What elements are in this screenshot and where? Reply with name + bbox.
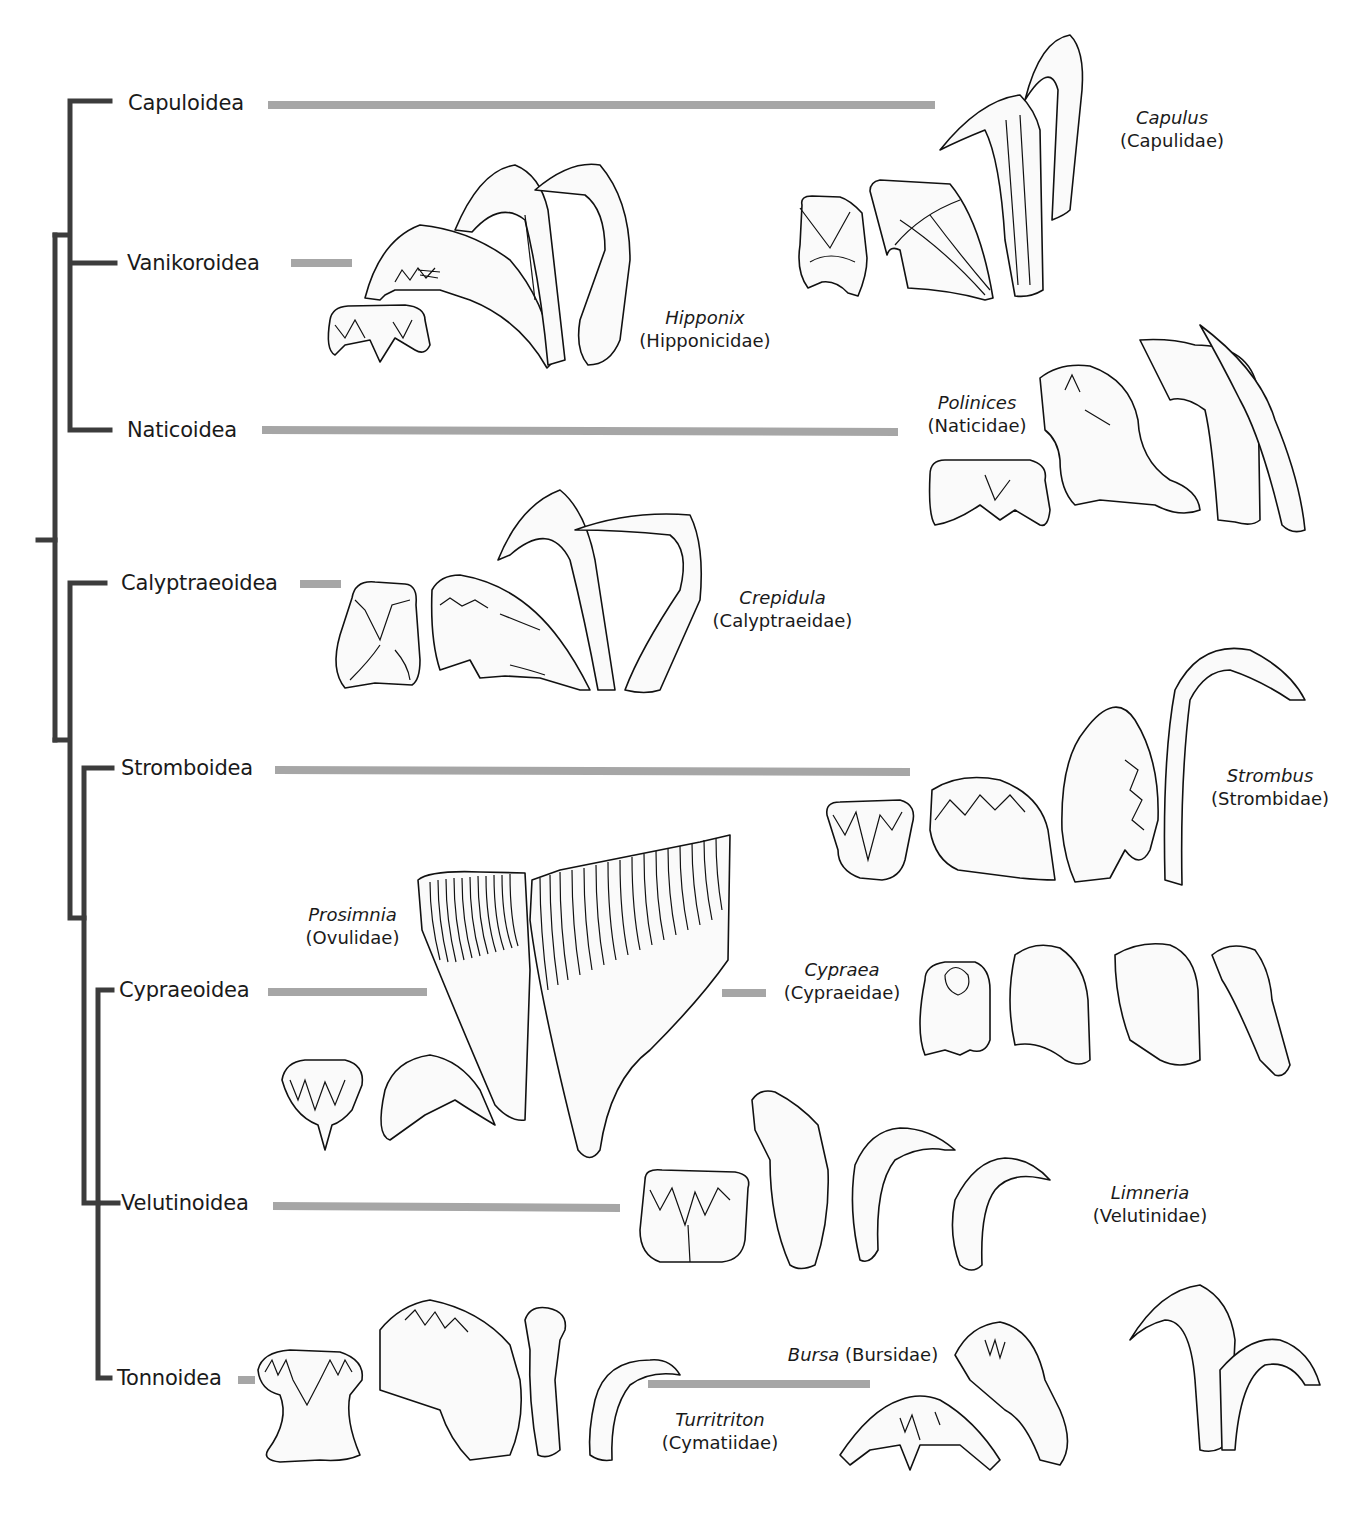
clade-label-capuloidea: Capuloidea (128, 91, 244, 115)
genus-name: Polinices (917, 391, 1037, 414)
taxon-label-strombus: Strombus (Strombidae) (1200, 764, 1340, 810)
teeth-bursa (840, 1285, 1320, 1470)
genus-name: Hipponix (625, 306, 785, 329)
teeth-capulus (799, 35, 1083, 300)
taxon-label-limneria: Limneria (Velutinidae) (1075, 1181, 1225, 1227)
figure-canvas: Capuloidea Vanikoroidea Naticoidea Calyp… (0, 0, 1365, 1518)
genus-name: Turritriton (645, 1408, 795, 1431)
family-name: (Calyptraeidae) (700, 609, 865, 632)
teeth-cypraea (920, 944, 1290, 1076)
taxon-label-polinices: Polinices (Naticidae) (917, 391, 1037, 437)
taxon-label-hipponix: Hipponix (Hipponicidae) (625, 306, 785, 352)
teeth-turritriton (258, 1300, 680, 1462)
clade-label-stromboidea: Stromboidea (121, 756, 253, 780)
connector-bars (238, 105, 935, 1384)
family-name: (Ovulidae) (295, 926, 410, 949)
teeth-limneria (640, 1091, 1050, 1270)
genus-name: Cypraea (772, 958, 912, 981)
taxon-label-prosimnia: Prosimnia (Ovulidae) (295, 903, 410, 949)
clade-label-tonnoidea: Tonnoidea (117, 1366, 222, 1390)
connector-naticoidea (262, 430, 898, 432)
genus-name: Strombus (1200, 764, 1340, 787)
teeth-crepidula (336, 490, 701, 693)
tree-clade-b (55, 583, 105, 918)
tree-clade-d (98, 990, 118, 1378)
taxon-label-bursa: Bursa (Bursidae) (778, 1343, 948, 1366)
family-name: (Cypraeidae) (772, 981, 912, 1004)
clade-label-cypraeoidea: Cypraeoidea (119, 978, 249, 1002)
genus-name: Crepidula (700, 586, 865, 609)
taxon-label-crepidula: Crepidula (Calyptraeidae) (700, 586, 865, 632)
teeth-prosimnia (282, 835, 730, 1158)
taxon-label-turritriton: Turritriton (Cymatiidae) (645, 1408, 795, 1454)
family-name: (Hipponicidae) (625, 329, 785, 352)
connector-velutinoidea (273, 1206, 620, 1208)
family-name: (Cymatiidae) (645, 1431, 795, 1454)
taxon-label-capulus: Capulus (Capulidae) (1112, 106, 1232, 152)
genus-name: Bursa (788, 1344, 845, 1365)
family-name: (Bursidae) (845, 1344, 938, 1365)
clade-label-vanikoroidea: Vanikoroidea (127, 251, 260, 275)
clade-label-calyptraeoidea: Calyptraeoidea (121, 571, 278, 595)
taxon-label-cypraea: Cypraea (Cypraeidae) (772, 958, 912, 1004)
clade-label-naticoidea: Naticoidea (127, 418, 237, 442)
tree-clade-a (55, 101, 115, 430)
genus-name: Prosimnia (295, 903, 410, 926)
genus-name: Capulus (1112, 106, 1232, 129)
teeth-hipponix (328, 164, 630, 368)
phylogenetic-tree (38, 101, 118, 1378)
connector-stromboidea (275, 770, 910, 772)
family-name: (Naticidae) (917, 414, 1037, 437)
clade-label-velutinoidea: Velutinoidea (121, 1191, 249, 1215)
genus-name: Limneria (1075, 1181, 1225, 1204)
family-name: (Capulidae) (1112, 129, 1232, 152)
family-name: (Strombidae) (1200, 787, 1340, 810)
family-name: (Velutinidae) (1075, 1204, 1225, 1227)
